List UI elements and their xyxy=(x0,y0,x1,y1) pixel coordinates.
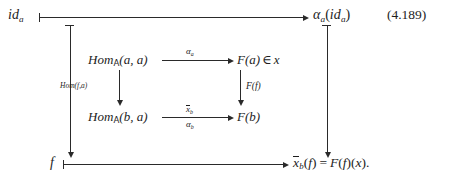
arrowhead-square-bottom-icon xyxy=(228,115,234,121)
square-top-arrow-label: αa xyxy=(186,47,194,58)
outer-top-source-base: id xyxy=(8,7,19,22)
square-bottom-right-arg: (b) xyxy=(245,109,260,124)
outer-bottom-source: f xyxy=(50,156,54,170)
outer-top-source-sub: a xyxy=(19,14,24,24)
square-top-right-arg: (a) xyxy=(245,52,260,67)
outer-top-source: ida xyxy=(8,8,24,24)
square-left-arrow-args: (f,a) xyxy=(75,81,88,90)
element-of-icon: ∈ xyxy=(262,52,272,67)
functor-F-symbol: F xyxy=(237,52,245,67)
square-top-right-object: F(a)∈x xyxy=(237,53,280,66)
arrowhead-square-left-icon xyxy=(117,100,123,106)
equation-number: (4.189) xyxy=(387,8,426,22)
outer-top-target: αa(ida) xyxy=(313,8,350,24)
outer-top-target-arg: id xyxy=(330,7,341,22)
outer-bottom-x: x xyxy=(293,155,299,170)
square-bottom-arrow-label-below: αb xyxy=(186,120,194,131)
square-top-arrow-line xyxy=(162,60,230,61)
maps-to-line-top xyxy=(39,17,305,18)
arrowhead-top-right-icon xyxy=(303,15,309,21)
x-bar-overline: x xyxy=(186,104,190,114)
square-left-arrow-hom: Hom xyxy=(60,81,75,90)
square-right-arrow-label: F(f) xyxy=(246,82,261,92)
square-left-arrow-line xyxy=(119,70,120,103)
square-top-arrow-alpha-sub: a xyxy=(191,51,194,57)
square-bottom-arrow-alpha-sub: b xyxy=(191,124,194,130)
functor-F-symbol-bottom: F xyxy=(237,109,245,124)
square-right-arrow-line xyxy=(240,70,241,103)
outer-left-vertical-line xyxy=(70,25,71,155)
square-bottom-arrow-x-sub: b xyxy=(190,109,193,115)
square-bottom-arrow-label-above: xb xyxy=(186,104,193,116)
square-bottom-arrow-x: x xyxy=(186,104,190,114)
alpha-symbol: α xyxy=(313,7,320,22)
square-bottom-right-object: F(b) xyxy=(237,110,260,123)
outer-right-vertical-line xyxy=(327,25,328,155)
hom-symbol-bottom: Hom xyxy=(88,109,113,124)
arrowhead-square-top-icon xyxy=(228,58,234,64)
square-bottom-arrow-line xyxy=(162,117,230,118)
x-bar-overline-bottom: x xyxy=(293,155,299,170)
square-right-arrow-args: (f) xyxy=(252,81,261,91)
hom-symbol: Hom xyxy=(88,52,113,67)
outer-bottom-target: xb(f)=F(f)(x). xyxy=(293,155,369,171)
arrowhead-bottom-right-icon xyxy=(283,162,289,168)
arrowhead-square-right-icon xyxy=(238,100,244,106)
equals-sign: = xyxy=(319,155,327,170)
square-top-left-object: HomA(a, a) xyxy=(88,53,147,68)
period: . xyxy=(366,155,369,170)
maps-to-line-bottom xyxy=(63,164,285,165)
square-bottom-left-args: (b, a) xyxy=(119,109,147,124)
square-left-arrow-label: Hom(f,a) xyxy=(60,82,87,90)
square-bottom-left-object: HomA(b, a) xyxy=(88,110,147,125)
square-top-left-args: (a, a) xyxy=(119,52,147,67)
element-x: x xyxy=(274,52,280,67)
arrowhead-left-down-icon xyxy=(68,152,74,158)
equation-figure: ida αa(ida) (4.189) HomA(a, a) αa F(a)∈x… xyxy=(0,0,452,181)
